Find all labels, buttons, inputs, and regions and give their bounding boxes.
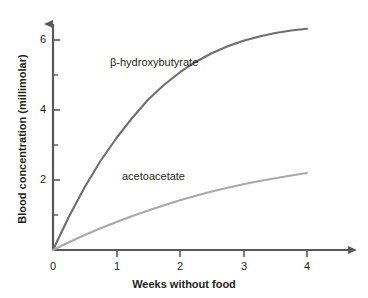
series-line-acetoacetate [53, 173, 307, 250]
chart-figure: 6 4 2 0 1 2 3 4 β-hydroxybutyrate acetoa… [0, 0, 368, 298]
series-annotation-acetoacetate: acetoacetate [122, 170, 185, 182]
x-axis-title: Weeks without food [0, 278, 368, 290]
x-tick-label-1: 1 [109, 260, 125, 272]
y-axis-title: Blood concentration (millimolar) [16, 29, 28, 249]
x-tick-label-3: 3 [236, 260, 252, 272]
x-tick-label-4: 4 [299, 260, 315, 272]
series-annotation-beta-hydroxybutyrate: β-hydroxybutyrate [110, 56, 198, 68]
y-tick-label-2: 2 [30, 173, 46, 185]
y-tick-label-6: 6 [30, 33, 46, 45]
x-tick-label-2: 2 [172, 260, 188, 272]
chart-plot-area [0, 0, 368, 298]
y-tick-label-4: 4 [30, 103, 46, 115]
x-tick-label-0: 0 [45, 260, 61, 272]
